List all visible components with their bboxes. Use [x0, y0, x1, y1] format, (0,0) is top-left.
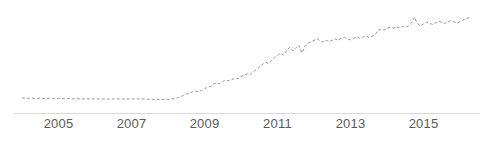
- chart-plot-area: [0, 0, 494, 147]
- line-chart: 2005 2007 2009 2011 2013 2015: [0, 0, 494, 147]
- data-series-line: [22, 17, 469, 99]
